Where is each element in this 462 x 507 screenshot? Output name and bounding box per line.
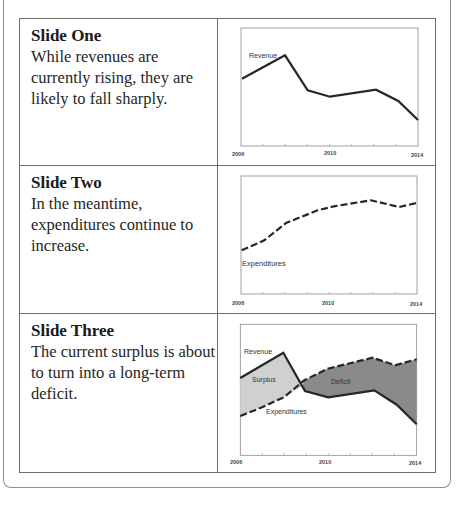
slide-row-three: Slide Three The current surplus is about… [20, 313, 435, 472]
year-2010-label: 2010 [319, 459, 331, 465]
slide-one-text-cell: Slide One While revenues are currently r… [20, 19, 218, 165]
surplus-deficit-chart: Revenue Surplus Deficit Expenditures 200… [218, 314, 435, 473]
slide-three-text-cell: Slide Three The current surplus is about… [20, 314, 218, 472]
chart-frame [241, 176, 417, 294]
slide-table: Slide One While revenues are currently r… [19, 18, 436, 473]
expenditures-chart: Expenditures 2006 2010 2014 [218, 166, 435, 314]
year-2010-label: 2010 [324, 150, 336, 156]
slide-two-title: Slide Two [31, 173, 217, 193]
slide-row-one: Slide One While revenues are currently r… [20, 19, 435, 165]
slide-two-body: In the meantime, expenditures continue t… [31, 193, 217, 256]
year-2006-label: 2006 [232, 300, 244, 306]
surplus-label: Surplus [252, 376, 276, 384]
year-2014-label: 2014 [410, 301, 423, 307]
year-2014-label: 2014 [411, 152, 424, 158]
slide-two-text-cell: Slide Two In the meantime, expenditures … [20, 166, 218, 313]
revenue-chart: Revenue 2006 2010 2014 [218, 19, 435, 165]
deficit-label: Deficit [331, 378, 351, 385]
slide-one-title: Slide One [31, 26, 217, 46]
revenue-label: Revenue [244, 348, 272, 355]
slide-two-chart-cell: Expenditures 2006 2010 2014 [218, 166, 435, 313]
revenue-label: Revenue [249, 52, 277, 59]
year-2014-label: 2014 [409, 460, 422, 466]
year-2010-label: 2010 [322, 300, 334, 306]
expenditures-label: Expenditures [242, 259, 286, 268]
slide-row-two: Slide Two In the meantime, expenditures … [20, 165, 435, 313]
slide-one-body: While revenues are currently rising, the… [31, 46, 217, 109]
year-2006-label: 2006 [230, 459, 242, 465]
year-2006-label: 2006 [232, 151, 244, 157]
slide-one-chart-cell: Revenue 2006 2010 2014 [218, 19, 435, 165]
slide-three-title: Slide Three [31, 321, 217, 341]
slide-three-chart-cell: Revenue Surplus Deficit Expenditures 200… [218, 314, 435, 472]
chart-frame [241, 28, 418, 146]
slide-three-body: The current surplus is about to turn int… [31, 341, 217, 404]
expenditures-label: Expenditures [266, 408, 307, 416]
